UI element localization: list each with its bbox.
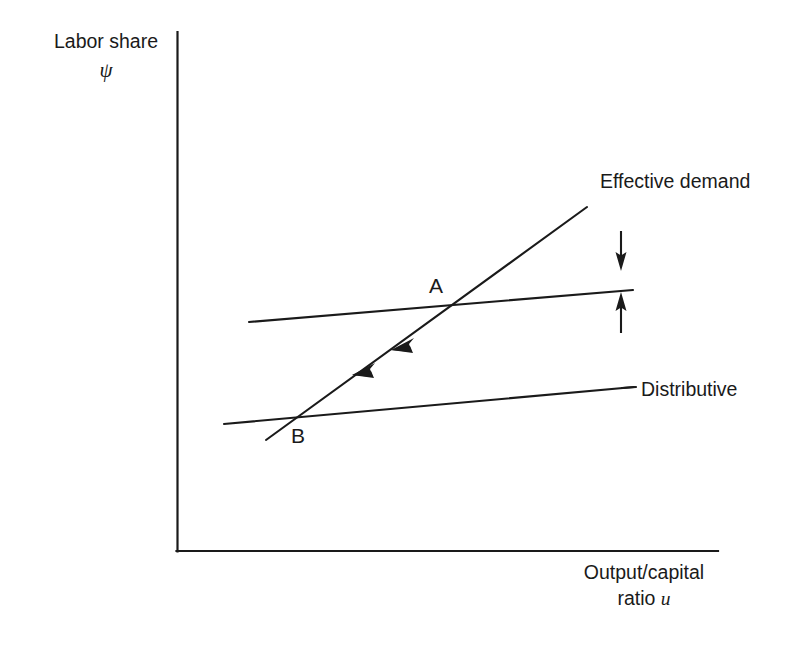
shift-up-arrow-icon xyxy=(616,292,627,333)
x-axis-symbol-u: u xyxy=(661,588,671,609)
point-label-a: A xyxy=(429,274,443,299)
distributive-label: Distributive xyxy=(641,378,737,401)
shift-down-arrow-icon xyxy=(616,231,627,271)
distributive-line-lower xyxy=(224,387,634,424)
y-axis-title: Labor share ψ xyxy=(44,30,168,83)
point-label-b: B xyxy=(291,424,305,449)
x-axis-title: Output/capital ratio u xyxy=(560,561,728,610)
y-axis-symbol-psi: ψ xyxy=(44,58,168,83)
y-axis-title-text: Labor share xyxy=(54,30,158,52)
diagram-canvas xyxy=(0,0,810,646)
economics-phase-diagram: Labor share ψ Output/capital ratio u Eff… xyxy=(0,0,810,646)
effective-demand-label: Effective demand xyxy=(600,170,750,193)
x-axis-title-text: Output/capital xyxy=(584,561,704,583)
x-axis-title-text-line2: ratio u xyxy=(560,587,728,610)
distributive-label-leader xyxy=(622,387,636,388)
